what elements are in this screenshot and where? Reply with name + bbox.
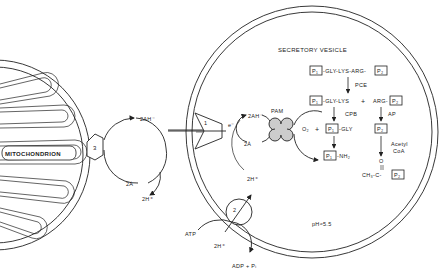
svg-text:P₁: P₁: [312, 68, 318, 74]
svg-text:AP: AP: [388, 111, 396, 117]
svg-text:O₂: O₂: [302, 126, 309, 132]
left-cycle-2a: 2Ȧ: [126, 181, 133, 187]
svg-text:3: 3: [93, 145, 97, 151]
mitochondrion-label: MITOCHONDRION: [5, 151, 61, 157]
svg-text:-NH₂: -NH₂: [337, 153, 350, 159]
svg-text:P₂: P₂: [392, 98, 398, 104]
svg-text:-GLY: -GLY: [339, 126, 353, 132]
pam-enzyme: PAM: [269, 108, 293, 141]
svg-text:1: 1: [204, 120, 207, 126]
peptide-pathway: P₁ -GLY-LYS-ARG- P₂ PCE P₁ -GLY-LYS + AR…: [302, 66, 408, 179]
svg-text:CPB: CPB: [345, 111, 357, 117]
svg-text:Acetyl: Acetyl: [391, 141, 408, 147]
svg-text:ARG-: ARG-: [373, 98, 388, 104]
transporter-3: 3: [87, 134, 103, 160]
svg-text:PCE: PCE: [355, 82, 367, 88]
proton-in-label: 2H⁺: [214, 243, 225, 249]
svg-text:P₁: P₁: [326, 153, 332, 159]
svg-text:P₂: P₂: [394, 172, 400, 178]
left-cycle-2ah: 2AH⁻: [140, 116, 155, 122]
ph-label: pH≈5.5: [312, 221, 332, 227]
pam-reaction-arc: [294, 111, 322, 125]
adp-label: ADP + Pᵢ: [232, 263, 256, 269]
svg-text:-GLY-LYS-ARG-: -GLY-LYS-ARG-: [323, 68, 366, 74]
svg-text:CH₃-C-: CH₃-C-: [362, 172, 382, 178]
left-redox-cycle: 2AH⁻ 2Ȧ 2H⁺: [104, 116, 167, 202]
pam-label: PAM: [271, 108, 284, 114]
svg-text:P₁: P₁: [328, 126, 334, 132]
svg-text:+: +: [361, 98, 365, 105]
proton-out-label: 2H⁺: [247, 176, 258, 182]
svg-text:CoA: CoA: [393, 148, 405, 154]
transporter-2-proton-pump: 2 ATP 2H⁺ ADP + Pᵢ 2H⁺: [185, 176, 258, 269]
secretory-pathway-diagram: MITOCHONDRION 3 2AH⁻ 2Ȧ 2H⁺ SECRETORY V…: [0, 0, 439, 278]
svg-text:P₂: P₂: [377, 68, 383, 74]
svg-text:O: O: [379, 158, 384, 164]
svg-text:-GLY-LYS: -GLY-LYS: [323, 98, 349, 104]
transporter-1: 1: [168, 113, 226, 149]
secretory-vesicle-label: SECRETORY VESICLE: [278, 47, 347, 53]
svg-text:P₂: P₂: [377, 126, 383, 132]
atp-label: ATP: [185, 231, 196, 237]
svg-text:2: 2: [233, 207, 236, 213]
left-cycle-2h: 2H⁺: [142, 196, 153, 202]
right-redox-cycle: e⁻ 2AH⁻ 2Ȧ: [228, 113, 272, 170]
svg-text:+: +: [315, 126, 319, 133]
right-cycle-2a: 2Ȧ: [244, 141, 251, 147]
right-cycle-2ah: 2AH⁻: [248, 113, 263, 119]
electron-label: e⁻: [228, 122, 235, 128]
svg-text:P₁: P₁: [312, 98, 318, 104]
